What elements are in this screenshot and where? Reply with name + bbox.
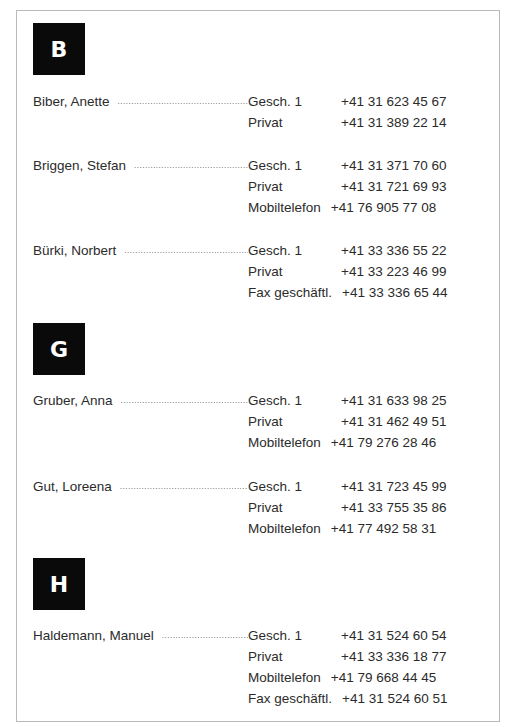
phone-row: Gut, Loreena ...........................… <box>33 476 501 497</box>
phone-number: +41 33 223 46 99 <box>341 264 446 279</box>
entry-briggen-stefan: Briggen, Stefan ........................… <box>33 155 501 218</box>
phone-label: Gesch. 1 <box>248 158 341 173</box>
phone-number: +41 31 723 45 99 <box>341 479 446 494</box>
phone-label: Gesch. 1 <box>248 479 341 494</box>
dot-leader: ........................................… <box>124 244 248 258</box>
phone-number: +41 79 276 28 46 <box>331 435 436 450</box>
phone-row: Mobiltelefon +41 79 668 44 45 <box>33 667 501 688</box>
phone-label: Privat <box>248 115 341 130</box>
phone-number: +41 31 371 70 60 <box>341 158 446 173</box>
phone-row: Privat +41 33 755 35 86 <box>33 497 501 518</box>
contact-name-cell: Haldemann, Manuel ......................… <box>33 628 248 643</box>
phone-number: +41 31 389 22 14 <box>341 115 446 130</box>
phone-number: +41 31 462 49 51 <box>341 414 446 429</box>
phone-label: Mobiltelefon <box>248 435 331 450</box>
phone-number: +41 76 905 77 08 <box>331 200 436 215</box>
phone-label: Mobiltelefon <box>248 200 331 215</box>
phone-row: Briggen, Stefan ........................… <box>33 155 501 176</box>
contact-name: Gut, Loreena <box>33 479 120 494</box>
phone-label: Gesch. 1 <box>248 94 341 109</box>
dot-leader: ........................................… <box>120 480 248 494</box>
dot-leader: ........................................… <box>134 159 248 173</box>
section-letter-b: B <box>33 23 85 75</box>
phone-label: Privat <box>248 264 341 279</box>
phone-row: Privat +41 33 336 18 77 <box>33 646 501 667</box>
section-g: G <box>33 323 501 375</box>
phone-label: Privat <box>248 649 341 664</box>
contact-name-cell: Bürki, Norbert .........................… <box>33 243 248 258</box>
dot-leader: ........................................… <box>162 629 248 643</box>
phone-label: Gesch. 1 <box>248 243 341 258</box>
phone-label: Fax geschäftl. <box>248 691 342 706</box>
phone-row: Bürki, Norbert .........................… <box>33 240 501 261</box>
contact-name: Bürki, Norbert <box>33 243 124 258</box>
contact-name: Gruber, Anna <box>33 393 121 408</box>
phone-label: Mobiltelefon <box>248 521 331 536</box>
section-letter-h: H <box>33 558 85 610</box>
entry-gruber-anna: Gruber, Anna ...........................… <box>33 390 501 453</box>
entry-biber-anette: Biber, Anette ..........................… <box>33 91 501 133</box>
phone-row: Privat +41 31 389 22 14 <box>33 112 501 133</box>
phone-label: Gesch. 1 <box>248 393 341 408</box>
dot-leader: ........................................… <box>118 95 248 109</box>
phone-row: Gruber, Anna ...........................… <box>33 390 501 411</box>
phone-row: Privat +41 31 721 69 93 <box>33 176 501 197</box>
phone-label: Privat <box>248 414 341 429</box>
phone-number: +41 31 524 60 51 <box>342 691 447 706</box>
phone-row: Mobiltelefon +41 76 905 77 08 <box>33 197 501 218</box>
phone-label: Mobiltelefon <box>248 670 331 685</box>
phone-row: Privat +41 33 223 46 99 <box>33 261 501 282</box>
contact-name-cell: Gruber, Anna ...........................… <box>33 393 248 408</box>
entry-gut-loreena: Gut, Loreena ...........................… <box>33 476 501 539</box>
phone-number: +41 31 524 60 54 <box>341 628 446 643</box>
entry-buerki-norbert: Bürki, Norbert .........................… <box>33 240 501 303</box>
phone-number: +41 77 492 58 31 <box>331 521 436 536</box>
phone-number: +41 33 336 18 77 <box>341 649 446 664</box>
section-letter-g: G <box>33 323 85 375</box>
contact-name-cell: Briggen, Stefan ........................… <box>33 158 248 173</box>
phone-number: +41 31 633 98 25 <box>341 393 446 408</box>
phone-number: +41 33 336 65 44 <box>342 285 447 300</box>
phone-number: +41 79 668 44 45 <box>331 670 436 685</box>
phone-label: Privat <box>248 500 341 515</box>
phone-row: Mobiltelefon +41 79 276 28 46 <box>33 432 501 453</box>
phone-row: Fax geschäftl. +41 33 336 65 44 <box>33 282 501 303</box>
phone-label: Fax geschäftl. <box>248 285 342 300</box>
contact-name-cell: Gut, Loreena ...........................… <box>33 479 248 494</box>
phone-number: +41 33 336 55 22 <box>341 243 446 258</box>
section-h: H <box>33 558 501 610</box>
contact-name: Briggen, Stefan <box>33 158 134 173</box>
directory-page: B Biber, Anette ........................… <box>16 10 500 722</box>
phone-label: Gesch. 1 <box>248 628 341 643</box>
phone-row: Fax geschäftl. +41 31 524 60 51 <box>33 688 501 709</box>
contact-name: Biber, Anette <box>33 94 118 109</box>
phone-number: +41 33 755 35 86 <box>341 500 446 515</box>
phone-number: +41 31 721 69 93 <box>341 179 446 194</box>
phone-row: Haldemann, Manuel ......................… <box>33 625 501 646</box>
contact-name: Haldemann, Manuel <box>33 628 162 643</box>
section-b: B <box>33 23 501 75</box>
phone-label: Privat <box>248 179 341 194</box>
contact-name-cell: Biber, Anette ..........................… <box>33 94 248 109</box>
phone-number: +41 31 623 45 67 <box>341 94 446 109</box>
phone-row: Privat +41 31 462 49 51 <box>33 411 501 432</box>
phone-row: Mobiltelefon +41 77 492 58 31 <box>33 518 501 539</box>
dot-leader: ........................................… <box>121 394 248 408</box>
phone-row: Biber, Anette ..........................… <box>33 91 501 112</box>
entry-haldemann-manuel: Haldemann, Manuel ......................… <box>33 625 501 709</box>
